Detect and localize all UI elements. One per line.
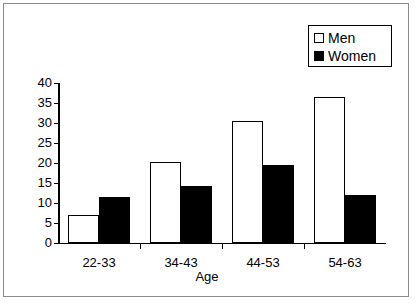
bar-women-54-63 xyxy=(345,195,376,243)
y-axis-tick-label: 15 xyxy=(26,176,52,189)
y-axis-tick-label: 10 xyxy=(26,196,52,209)
x-axis-category-label: 44-53 xyxy=(222,256,304,269)
x-axis-category-label: 54-63 xyxy=(304,256,386,269)
bar-men-44-53 xyxy=(232,121,263,243)
bar-series-group xyxy=(58,83,386,243)
x-axis-tick xyxy=(140,244,141,249)
bar-men-54-63 xyxy=(314,97,345,243)
x-axis-category-label: 34-43 xyxy=(140,256,222,269)
x-axis-tick xyxy=(304,244,305,249)
bar-women-44-53 xyxy=(263,165,294,243)
y-axis-tick-label: 25 xyxy=(26,136,52,149)
y-axis-tick-label: 20 xyxy=(26,156,52,169)
x-axis-title: Age xyxy=(4,270,410,283)
bar-women-34-43 xyxy=(181,186,212,243)
x-axis-category-label: 22-33 xyxy=(58,256,140,269)
y-axis-labels: 0510152025303540 xyxy=(24,4,52,298)
bar-men-22-33 xyxy=(68,215,99,243)
y-axis-tick-label: 35 xyxy=(26,96,52,109)
y-axis-tick-label: 5 xyxy=(26,216,52,229)
bar-women-22-33 xyxy=(99,197,130,243)
chart-frame: Men Women 0510152025303540 22-3334-4344-… xyxy=(3,3,409,297)
y-axis-tick-label: 0 xyxy=(26,236,52,249)
y-axis-tick-label: 40 xyxy=(26,76,52,89)
bar-men-34-43 xyxy=(150,162,181,243)
x-axis-tick xyxy=(222,244,223,249)
plot-area: 0510152025303540 22-3334-4344-5354-63 Ag… xyxy=(4,4,410,298)
y-axis-tick xyxy=(54,243,58,244)
y-axis-tick-label: 30 xyxy=(26,116,52,129)
